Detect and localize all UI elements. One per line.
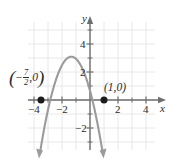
xtick-label-neg2: −2 [56,104,68,115]
ytick-label-neg2: −2 [75,123,87,134]
xtick-label-neg4: −4 [28,104,40,115]
left-label-minus: − [15,71,23,83]
xtick-label-pos4: 4 [143,104,149,115]
right-label-close-paren: ) [122,81,126,93]
left-label-fraction: 72 [23,68,29,87]
parabola-curve [36,30,106,159]
ytick-label-pos4: 4 [80,39,86,50]
y-axis-label: y [82,13,87,24]
left-label-numerator: 7 [23,68,29,77]
graph-figure: (−72,0) (1,0) −4 −2 2 4 2 4 −2 x y [0,0,174,162]
left-intercept-label: (−72,0) [9,68,44,88]
xtick-label-pos2: 2 [115,104,121,115]
right-intercept-label: (1,0) [104,82,126,94]
x-axis-label: x [160,103,165,114]
left-label-denominator: 2 [23,77,29,87]
ytick-label-pos2: 2 [80,67,86,78]
left-label-close-paren: ) [38,67,44,88]
right-intercept-dot [101,97,108,104]
